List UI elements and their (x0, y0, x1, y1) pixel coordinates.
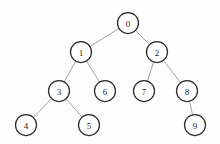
node-label-7: 7 (142, 87, 147, 97)
node-label-1: 1 (79, 48, 84, 58)
tree-edge-0-2 (135, 30, 149, 44)
tree-node-5[interactable]: 5 (79, 115, 100, 136)
tree-edge-1-6 (87, 61, 100, 82)
tree-edge-3-4 (33, 99, 51, 118)
node-layer: 0123678459 (16, 13, 206, 136)
tree-node-1[interactable]: 1 (71, 42, 92, 63)
binary-tree-graphic: 0123678459 (0, 0, 220, 144)
node-label-4: 4 (24, 121, 29, 131)
tree-node-2[interactable]: 2 (147, 42, 168, 63)
node-label-6: 6 (103, 87, 108, 97)
tree-edge-0-1 (90, 29, 119, 47)
tree-edge-8-9 (189, 101, 192, 115)
node-label-8: 8 (185, 87, 190, 97)
tree-edge-2-7 (147, 62, 153, 81)
tree-node-6[interactable]: 6 (95, 81, 116, 102)
node-label-5: 5 (87, 121, 92, 131)
node-label-9: 9 (193, 121, 198, 131)
tree-node-4[interactable]: 4 (16, 115, 37, 136)
tree-edge-1-3 (64, 61, 76, 82)
node-label-0: 0 (126, 19, 131, 29)
tree-diagram-canvas: 0123678459 (0, 0, 220, 144)
tree-node-8[interactable]: 8 (177, 81, 198, 102)
edge-layer (33, 29, 192, 118)
node-label-3: 3 (57, 87, 62, 97)
tree-node-7[interactable]: 7 (134, 81, 155, 102)
tree-edge-2-8 (163, 60, 180, 82)
tree-edge-3-5 (66, 99, 82, 117)
tree-node-0[interactable]: 0 (118, 13, 139, 34)
tree-node-3[interactable]: 3 (49, 81, 70, 102)
tree-node-9[interactable]: 9 (185, 115, 206, 136)
node-label-2: 2 (155, 48, 160, 58)
